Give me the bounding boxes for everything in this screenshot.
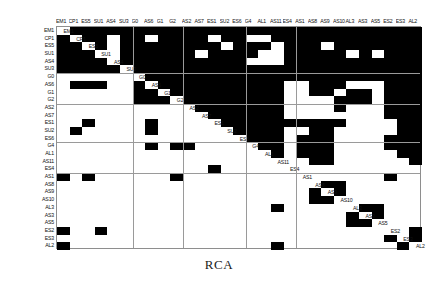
dsm-diagonal-cell[interactable] <box>359 212 372 220</box>
dsm-filled-cell[interactable] <box>246 50 259 58</box>
dsm-filled-cell[interactable] <box>133 96 146 104</box>
dsm-filled-cell[interactable] <box>334 58 347 66</box>
dsm-filled-cell[interactable] <box>409 104 422 112</box>
dsm-diagonal-cell[interactable] <box>284 165 297 173</box>
dsm-filled-cell[interactable] <box>384 104 397 112</box>
dsm-diagonal-cell[interactable] <box>95 50 108 58</box>
dsm-filled-cell[interactable] <box>284 42 297 50</box>
dsm-filled-cell[interactable] <box>384 42 397 50</box>
dsm-filled-cell[interactable] <box>397 58 410 66</box>
dsm-filled-cell[interactable] <box>321 50 334 58</box>
dsm-filled-cell[interactable] <box>384 112 397 120</box>
dsm-filled-cell[interactable] <box>359 204 372 212</box>
dsm-filled-cell[interactable] <box>246 89 259 97</box>
dsm-filled-cell[interactable] <box>145 50 158 58</box>
dsm-filled-cell[interactable] <box>271 204 284 212</box>
dsm-filled-cell[interactable] <box>271 104 284 112</box>
dsm-filled-cell[interactable] <box>409 89 422 97</box>
dsm-filled-cell[interactable] <box>82 65 95 73</box>
dsm-filled-cell[interactable] <box>221 73 234 81</box>
dsm-filled-cell[interactable] <box>372 58 385 66</box>
dsm-filled-cell[interactable] <box>246 127 259 135</box>
dsm-filled-cell[interactable] <box>334 181 347 189</box>
dsm-filled-cell[interactable] <box>384 27 397 35</box>
dsm-filled-cell[interactable] <box>309 42 322 50</box>
dsm-filled-cell[interactable] <box>170 35 183 43</box>
dsm-filled-cell[interactable] <box>271 35 284 43</box>
dsm-filled-cell[interactable] <box>158 73 171 81</box>
dsm-filled-cell[interactable] <box>208 112 221 120</box>
dsm-filled-cell[interactable] <box>233 119 246 127</box>
dsm-filled-cell[interactable] <box>397 96 410 104</box>
dsm-filled-cell[interactable] <box>195 96 208 104</box>
dsm-filled-cell[interactable] <box>258 89 271 97</box>
dsm-filled-cell[interactable] <box>271 112 284 120</box>
dsm-filled-cell[interactable] <box>309 188 322 196</box>
dsm-filled-cell[interactable] <box>170 142 183 150</box>
dsm-filled-cell[interactable] <box>397 112 410 120</box>
dsm-filled-cell[interactable] <box>359 219 372 227</box>
dsm-filled-cell[interactable] <box>321 158 334 166</box>
dsm-filled-cell[interactable] <box>409 227 422 235</box>
dsm-filled-cell[interactable] <box>384 35 397 43</box>
dsm-filled-cell[interactable] <box>309 158 322 166</box>
dsm-filled-cell[interactable] <box>233 81 246 89</box>
dsm-filled-cell[interactable] <box>409 112 422 120</box>
dsm-filled-cell[interactable] <box>221 112 234 120</box>
dsm-filled-cell[interactable] <box>296 35 309 43</box>
dsm-filled-cell[interactable] <box>195 42 208 50</box>
dsm-filled-cell[interactable] <box>359 50 372 58</box>
dsm-filled-cell[interactable] <box>309 27 322 35</box>
dsm-filled-cell[interactable] <box>359 27 372 35</box>
dsm-filled-cell[interactable] <box>372 73 385 81</box>
dsm-filled-cell[interactable] <box>321 181 334 189</box>
dsm-filled-cell[interactable] <box>334 104 347 112</box>
dsm-filled-cell[interactable] <box>346 58 359 66</box>
dsm-filled-cell[interactable] <box>233 73 246 81</box>
dsm-diagonal-cell[interactable] <box>183 104 196 112</box>
dsm-filled-cell[interactable] <box>409 35 422 43</box>
dsm-filled-cell[interactable] <box>133 65 146 73</box>
dsm-filled-cell[interactable] <box>133 27 146 35</box>
dsm-diagonal-cell[interactable] <box>258 150 271 158</box>
dsm-filled-cell[interactable] <box>346 219 359 227</box>
dsm-filled-cell[interactable] <box>158 35 171 43</box>
dsm-filled-cell[interactable] <box>246 96 259 104</box>
dsm-filled-cell[interactable] <box>384 81 397 89</box>
dsm-filled-cell[interactable] <box>120 27 133 35</box>
dsm-diagonal-cell[interactable] <box>346 204 359 212</box>
dsm-filled-cell[interactable] <box>284 27 297 35</box>
dsm-filled-cell[interactable] <box>233 127 246 135</box>
dsm-filled-cell[interactable] <box>158 27 171 35</box>
dsm-filled-cell[interactable] <box>107 27 120 35</box>
dsm-filled-cell[interactable] <box>346 89 359 97</box>
dsm-filled-cell[interactable] <box>321 89 334 97</box>
dsm-filled-cell[interactable] <box>120 58 133 66</box>
dsm-filled-cell[interactable] <box>208 65 221 73</box>
dsm-filled-cell[interactable] <box>183 89 196 97</box>
dsm-diagonal-cell[interactable] <box>120 65 133 73</box>
dsm-diagonal-cell[interactable] <box>145 81 158 89</box>
dsm-filled-cell[interactable] <box>95 35 108 43</box>
dsm-filled-cell[interactable] <box>145 42 158 50</box>
dsm-filled-cell[interactable] <box>82 173 95 181</box>
dsm-filled-cell[interactable] <box>145 119 158 127</box>
dsm-filled-cell[interactable] <box>284 119 297 127</box>
dsm-filled-cell[interactable] <box>221 104 234 112</box>
dsm-filled-cell[interactable] <box>183 27 196 35</box>
dsm-filled-cell[interactable] <box>359 65 372 73</box>
dsm-diagonal-cell[interactable] <box>57 27 70 35</box>
dsm-filled-cell[interactable] <box>70 27 83 35</box>
dsm-filled-cell[interactable] <box>409 58 422 66</box>
dsm-filled-cell[interactable] <box>233 27 246 35</box>
dsm-filled-cell[interactable] <box>334 65 347 73</box>
dsm-filled-cell[interactable] <box>271 150 284 158</box>
dsm-filled-cell[interactable] <box>233 112 246 120</box>
dsm-filled-cell[interactable] <box>57 227 70 235</box>
dsm-filled-cell[interactable] <box>246 135 259 143</box>
dsm-filled-cell[interactable] <box>372 204 385 212</box>
dsm-filled-cell[interactable] <box>95 42 108 50</box>
dsm-diagonal-cell[interactable] <box>321 188 334 196</box>
dsm-filled-cell[interactable] <box>221 65 234 73</box>
dsm-filled-cell[interactable] <box>258 135 271 143</box>
